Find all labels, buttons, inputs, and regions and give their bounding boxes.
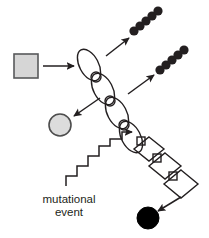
gray-circle <box>49 114 71 136</box>
dark-circle-cluster-middle <box>155 45 188 74</box>
diagram-root: mutational event <box>0 0 209 238</box>
black-circle <box>137 207 159 229</box>
diamond-chain <box>134 137 198 198</box>
product-circle <box>179 45 188 54</box>
dark-circle-cluster-top <box>129 6 162 35</box>
mutational-event-label-line1: mutational <box>42 193 95 205</box>
mutational-event-diagram: mutational event <box>0 0 209 238</box>
arrow-chain-to-cluster-top <box>106 38 129 56</box>
product-circle <box>153 6 162 15</box>
mutational-event-label-line2: event <box>55 206 84 218</box>
arrow-chain-to-cluster-middle <box>128 75 154 94</box>
gray-square <box>14 54 38 78</box>
arrow-diamond-to-black-circle <box>158 197 181 211</box>
arrow-chain-to-gray-circle <box>74 98 100 116</box>
